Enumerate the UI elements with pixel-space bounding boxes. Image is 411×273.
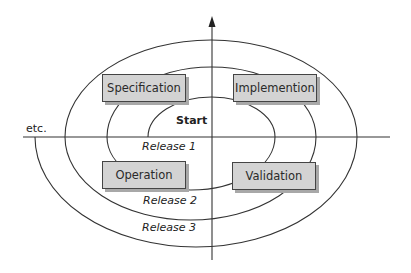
phase-label: Operation — [115, 168, 172, 182]
start-label: Start — [176, 114, 207, 127]
spiral-diagram — [0, 0, 411, 273]
release-2-label: Release 2 — [143, 194, 197, 207]
release-3-label: Release 3 — [142, 221, 196, 234]
arrow-up-icon — [209, 16, 216, 27]
phase-label: Specification — [107, 81, 181, 95]
phase-box-implementation: Implemention — [233, 74, 317, 102]
release-1-label: Release 1 — [142, 140, 196, 153]
phase-label: Validation — [246, 169, 303, 183]
phase-box-operation: Operation — [102, 161, 186, 189]
spiral-arc-bottom-3 — [35, 137, 357, 247]
phase-box-validation: Validation — [232, 162, 316, 190]
phase-label: Implemention — [235, 81, 315, 95]
etc-label: etc. — [26, 122, 47, 135]
phase-box-specification: Specification — [102, 74, 186, 102]
